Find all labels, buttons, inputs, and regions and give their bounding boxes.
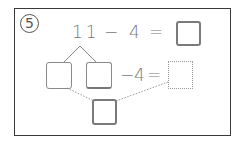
part-box-left[interactable] xyxy=(46,62,72,89)
minus-operator-2: − xyxy=(120,65,134,85)
part-box-right[interactable] xyxy=(86,62,112,89)
branch-lines xyxy=(64,46,96,62)
result-box-dotted[interactable] xyxy=(168,61,193,89)
equals-sign-2: = xyxy=(147,65,161,85)
dotted-link-left xyxy=(67,88,94,101)
combined-box[interactable] xyxy=(92,99,117,125)
subtrahend-text-2: 4 xyxy=(134,65,145,85)
